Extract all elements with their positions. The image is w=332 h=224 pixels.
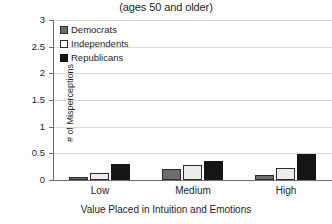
x-axis-title: Value Placed in Intuition and Emotions bbox=[0, 204, 332, 216]
y-tick-label: 1.5 bbox=[5, 95, 45, 105]
bar-chart: (ages 50 and older) # of Misperceptions … bbox=[0, 0, 332, 224]
bar-democrats-medium bbox=[162, 169, 181, 180]
bar-independents-low bbox=[90, 173, 109, 180]
legend-label-republicans: Republicans bbox=[71, 53, 123, 63]
legend-swatch-icon-democrats bbox=[60, 26, 68, 34]
bar-independents-high bbox=[276, 168, 295, 180]
legend-label-independents: Independents bbox=[71, 39, 129, 49]
y-tick-label: 0.5 bbox=[5, 148, 45, 158]
x-axis-line bbox=[53, 180, 332, 181]
legend-swatch-icon-republicans bbox=[60, 54, 68, 62]
legend-label-democrats: Democrats bbox=[71, 25, 117, 35]
x-tick-label-low: Low bbox=[55, 185, 145, 197]
bar-independents-medium bbox=[183, 165, 202, 180]
x-tick-label-medium: Medium bbox=[148, 185, 238, 197]
y-tick-label: 3 bbox=[5, 15, 45, 25]
legend-swatch-icon-independents bbox=[60, 40, 68, 48]
bar-republicans-high bbox=[297, 154, 316, 180]
y-tick-label: 1 bbox=[5, 122, 45, 132]
bar-democrats-low bbox=[69, 177, 88, 180]
bar-democrats-high bbox=[255, 175, 274, 180]
y-tick-label: 2.5 bbox=[5, 42, 45, 52]
bar-republicans-medium bbox=[204, 161, 223, 180]
y-tick-label: 0 bbox=[5, 175, 45, 185]
legend: Democrats Independents Republicans bbox=[60, 23, 129, 65]
x-tick-label-high: High bbox=[241, 185, 331, 197]
legend-item-independents: Independents bbox=[60, 37, 129, 50]
legend-item-democrats: Democrats bbox=[60, 23, 129, 36]
legend-item-republicans: Republicans bbox=[60, 51, 129, 64]
y-tick-label: 2 bbox=[5, 68, 45, 78]
chart-title: (ages 50 and older) bbox=[0, 1, 332, 14]
bar-republicans-low bbox=[111, 164, 130, 180]
